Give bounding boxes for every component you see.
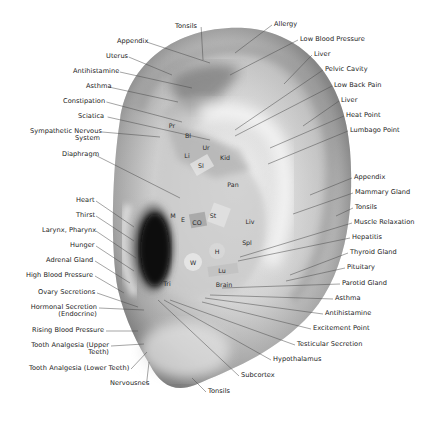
label-hormonal-secretion: Hormonal Secretion(Endocrine) <box>29 304 97 319</box>
label-asthma: Asthma <box>86 83 111 90</box>
label-testicular-secretion: Testicular Secretion <box>297 341 362 348</box>
label-mammary-gland: Mammary Gland <box>355 189 410 196</box>
label-ovary-secretions: Ovary Secretions <box>38 289 95 296</box>
label-excitement-point: Excitement Point <box>313 325 370 332</box>
zone-liv: Liv <box>246 218 255 225</box>
label-pituitary: Pituitary <box>347 264 375 271</box>
label-parotid-gland: Parotid Gland <box>342 280 387 287</box>
label-lumbago-point: Lumbago Point <box>350 127 400 134</box>
zone-kid: Kid <box>220 154 230 161</box>
label-pelvic-cavity: Pelvic Cavity <box>325 66 368 73</box>
label-liver: Liver <box>341 97 357 104</box>
label-uterus: Uterus <box>106 53 128 60</box>
label-tonsils: Tonsils <box>175 23 197 30</box>
ear-acupuncture-diagram: TonsilsAppendixUterusAntihistamineAsthma… <box>0 0 438 425</box>
label-nervousnes: Nervousnes <box>110 380 149 387</box>
zone-spl: Spl <box>242 239 252 246</box>
label-antihistamine: Antihistamine <box>325 310 371 317</box>
label-low-blood-pressure: Low Blood Pressure <box>300 36 365 43</box>
zone-lu: Lu <box>218 267 225 274</box>
label-sympathetic-nervous: Sympathetic NervousSystem <box>30 128 100 143</box>
zone-st: St <box>210 212 216 219</box>
zone-brain: Brain <box>216 281 233 288</box>
label-tonsils: Tonsils <box>355 204 377 211</box>
label-rising-blood-pressure: Rising Blood Pressure <box>32 327 104 334</box>
label-thirst: Thirst <box>76 212 94 219</box>
label-muscle-relaxation: Muscle Relaxation <box>354 219 415 226</box>
label-thyroid-gland: Thyroid Gland <box>350 249 397 256</box>
label-high-blood-pressure: High Blood Pressure <box>25 272 93 279</box>
zone-bl: Bl <box>185 132 191 139</box>
label-appendix: Appendix <box>354 174 385 181</box>
label-allergy: Allergy <box>274 21 297 28</box>
label-liver: Liver <box>314 51 330 58</box>
label-low-back-pain: Low Back Pain <box>334 82 382 89</box>
label-heat-point: Heat Point <box>346 112 381 119</box>
ear-illustration <box>0 0 438 425</box>
label-sciatica: Sciatica <box>78 113 104 120</box>
zone-si: SI <box>198 162 204 169</box>
zone-pr: Pr <box>169 122 175 129</box>
label-hunger: Hunger <box>70 242 94 249</box>
zone-w: W <box>190 259 196 266</box>
zone-e: E <box>181 216 185 223</box>
label-subcortex: Subcortex <box>241 372 275 379</box>
label-heart: Heart <box>76 197 94 204</box>
label-asthma: Asthma <box>335 295 360 302</box>
zone-pan: Pan <box>227 181 238 188</box>
label-adrenal-gland: Adrenal Gland <box>46 257 93 264</box>
label-constipation: Constipation <box>63 98 105 105</box>
zone-m: M <box>170 212 175 219</box>
label-tonsils: Tonsils <box>208 388 230 395</box>
zone-h: H <box>215 248 220 255</box>
label-tooth-analgesia-lower-teeth: Tooth Analgesia (Lower Teeth) <box>29 365 129 372</box>
label-diaphragm: Diaphragm <box>62 151 99 158</box>
label-larynx-pharynx: Larynx, Pharynx <box>42 227 94 234</box>
label-hypothalamus: Hypothalamus <box>273 356 321 363</box>
zone-li: Li <box>184 152 189 159</box>
label-appendix: Appendix <box>117 38 148 45</box>
label-antihistamine: Antihistamine <box>73 68 119 75</box>
zone-ur: Ur <box>202 144 209 151</box>
label-tooth-analgesia-upper: Tooth Analgesia (UpperTeeth) <box>30 342 109 357</box>
zone-co: CO <box>192 219 201 226</box>
label-hepatitis: Hepatitis <box>352 234 382 241</box>
zone-tri: Tri <box>163 280 170 287</box>
